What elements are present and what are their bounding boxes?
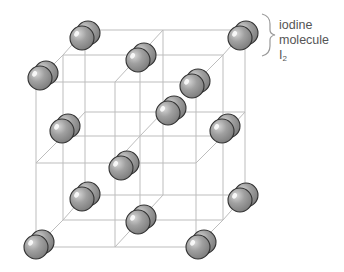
- iodine-atom: [50, 119, 74, 143]
- iodine-atom: [24, 235, 48, 259]
- iodine-atom: [126, 48, 150, 72]
- iodine-atom: [28, 66, 52, 90]
- label-line-2: molecule: [279, 33, 329, 48]
- iodine-atom: [210, 119, 234, 143]
- iodine-atom: [180, 74, 204, 98]
- iodine-atom: [70, 26, 94, 50]
- iodine-atom: [109, 156, 133, 180]
- label-formula: I2: [279, 48, 329, 66]
- iodine-atom: [70, 187, 94, 211]
- iodine-atom: [186, 235, 210, 259]
- brace-icon: [262, 14, 275, 56]
- label-line-1: iodine: [279, 18, 329, 33]
- iodine-atom: [126, 210, 150, 234]
- iodine-molecule-label: iodine molecule I2: [279, 18, 329, 66]
- iodine-atom: [228, 26, 252, 50]
- iodine-atom: [228, 188, 252, 212]
- iodine-atom: [156, 101, 180, 125]
